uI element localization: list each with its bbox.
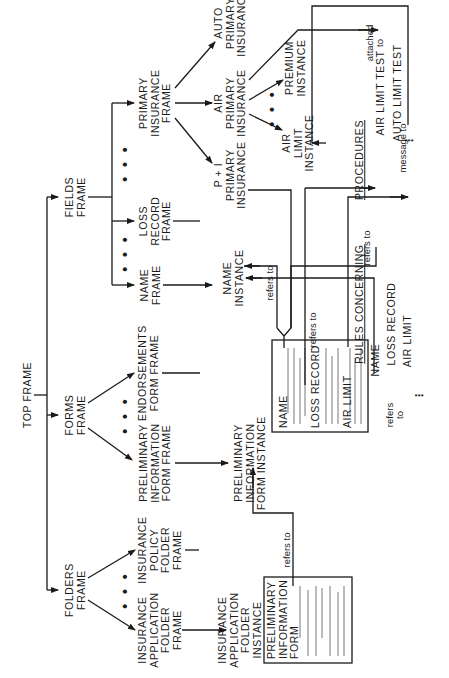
loss-record-frame-node: LOSS RECORD FRAME xyxy=(138,196,173,245)
rules-more: ⋮ xyxy=(414,389,426,400)
rule-loss-record: LOSS RECORD xyxy=(386,282,398,365)
pi-primary-insurance-node: P + I PRIMARY INSURANCE xyxy=(213,141,248,208)
preliminary-information-form-instance-node: PRELIMINARY INFORMATION FORM INSTANCE xyxy=(233,416,268,510)
frame-hierarchy-diagram: TOP FRAME FIELDS FRAME FORMS FRAME FOLDE… xyxy=(0,0,449,678)
edge-refers-to-4: refers to xyxy=(385,403,405,427)
endorsements-form-frame-node: ENDORSEMENTS FORM FRAME xyxy=(137,325,160,421)
preliminary-information-form-frame-node: PRELIMINARY INFORMATION FORM FRAME xyxy=(138,423,173,502)
edge-refers-to-2: refers to xyxy=(308,313,318,348)
air-primary-insurance-node: AIR PRIMARY INSURANCE xyxy=(213,69,248,136)
ellipsis-fields-2: • • • xyxy=(117,234,133,271)
rule-air-limit: AIR LIMIT xyxy=(402,315,414,368)
procedures-heading: PROCEDURES xyxy=(354,120,366,200)
forms-frame-node: FORMS FRAME xyxy=(64,395,87,436)
fields-frame-node: FIELDS FRAME xyxy=(64,177,87,217)
edge-refers-to-3: refers to xyxy=(362,231,372,266)
insurance-policy-folder-frame-node: INSURANCE POLICY FOLDER FRAME xyxy=(137,516,183,583)
folder-field-preliminary-information-form: PRELIMINARY INFORMATION FORM xyxy=(266,580,301,659)
ellipsis-air: • • • xyxy=(264,89,280,126)
edge-refers-to-5: refers to xyxy=(282,533,292,568)
procedure-air-limit-test: AIR LIMIT TEST xyxy=(375,50,387,135)
primary-insurance-frame-node: PRIMARY INSURANCE FRAME xyxy=(138,69,173,136)
edge-attached-to: attached to xyxy=(365,25,385,61)
name-instance-node: NAME INSTANCE xyxy=(222,249,245,306)
form-field-loss-record: LOSS RECORD xyxy=(310,345,322,428)
insurance-application-folder-frame-node: INSURANCE APPLICATION FOLDER FRAME xyxy=(137,592,183,667)
air-limit-instance-node: AIR LIMIT INSTANCE xyxy=(281,114,316,171)
folders-frame-node: FOLDERS FRAME xyxy=(64,563,87,617)
premium-instance-node: PREMIUM INSTANCE xyxy=(284,39,307,96)
name-frame-node: NAME FRAME xyxy=(139,265,162,305)
ellipsis-folders: • • • xyxy=(117,571,133,608)
edge-message-to: message to xyxy=(398,123,408,172)
ellipsis-forms: • • • xyxy=(117,396,133,433)
auto-primary-insurance-node: AUTO PRIMARY INSURANCE xyxy=(213,0,248,57)
ellipsis-fields: • • • xyxy=(117,144,133,181)
insurance-application-folder-instance-node: INSURANCE APPLICATION FOLDER INSTANCE xyxy=(217,592,263,667)
form-field-name: NAME xyxy=(278,395,290,428)
form-field-air-limit: AIR LIMIT xyxy=(342,375,354,428)
top-frame-node: TOP FRAME xyxy=(22,362,34,428)
rule-name: NAME xyxy=(370,344,382,377)
edge-refers-to-1: refers to xyxy=(265,266,275,301)
